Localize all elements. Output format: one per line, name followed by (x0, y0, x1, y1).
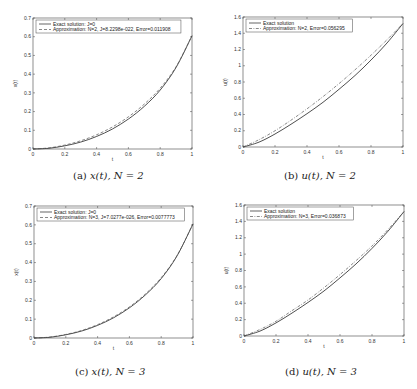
y-tick-label: 0.4 (235, 300, 242, 306)
x-tick-label: 0.2 (273, 338, 280, 344)
y-axis-label: u(t) (223, 266, 229, 274)
y-tick-label: 0.2 (235, 316, 242, 322)
caption-d-math: u(t), N = 3 (302, 366, 356, 377)
y-tick-label: 1.2 (235, 234, 242, 240)
caption-c: (c) x(t), N = 3 (75, 366, 145, 377)
x-tick-label: 0.6 (337, 338, 344, 344)
caption-a: (a) x(t), N = 2 (73, 170, 144, 181)
panel-d: 00.20.40.60.8100.20.40.60.811.21.41.6tu(… (0, 0, 417, 389)
x-axis-label: t (323, 343, 325, 349)
y-tick-label: 0.8 (235, 267, 242, 273)
legend-entry: Approximation: N=3, Error=0.036873 (264, 213, 346, 219)
caption-c-prefix: (c) (75, 366, 88, 377)
chart-d: 00.20.40.60.8100.20.40.60.811.21.41.6tu(… (0, 0, 417, 389)
caption-c-math: x(t), N = 3 (92, 366, 146, 377)
x-tick-label: 1 (403, 338, 406, 344)
series-exact-line (244, 212, 404, 336)
y-tick-label: 1 (239, 251, 242, 257)
x-tick-label: 0.4 (305, 338, 312, 344)
caption-a-prefix: (a) (73, 170, 87, 181)
y-tick-label: 0 (239, 333, 242, 339)
axes-frame (244, 205, 404, 336)
series-approx-line (244, 212, 404, 336)
caption-b-math: u(t), N = 2 (301, 170, 355, 181)
x-tick-label: 0 (243, 338, 246, 344)
y-tick-label: 1.4 (235, 218, 242, 224)
caption-b: (b) u(t), N = 2 (284, 170, 356, 181)
x-tick-label: 0.8 (369, 338, 376, 344)
caption-d: (d) u(t), N = 3 (285, 366, 357, 377)
caption-b-prefix: (b) (284, 170, 298, 181)
caption-d-prefix: (d) (285, 366, 299, 377)
y-tick-label: 0.6 (235, 284, 242, 290)
caption-a-math: x(t), N = 2 (90, 170, 144, 181)
y-tick-label: 1.6 (235, 202, 242, 208)
